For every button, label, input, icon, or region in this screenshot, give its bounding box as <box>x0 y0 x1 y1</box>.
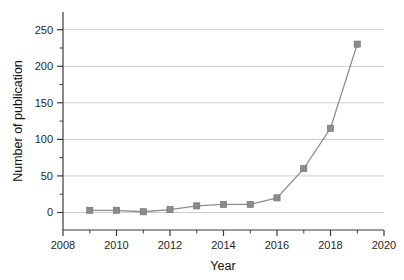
data-point-2016 <box>274 195 280 201</box>
x-tick-label-2016: 2016 <box>265 239 289 251</box>
series-line <box>90 44 358 212</box>
x-tick-label-2008: 2008 <box>51 239 75 251</box>
gridlines-group <box>63 30 384 213</box>
x-tick-label-2010: 2010 <box>104 239 128 251</box>
data-point-2018 <box>327 125 333 131</box>
data-point-2010 <box>113 207 119 213</box>
x-tick-label-2012: 2012 <box>158 239 182 251</box>
publication-trend-chart: 250 200 150 100 50 0 2008 2010 2012 <box>0 0 404 280</box>
data-series-group <box>87 41 361 215</box>
data-point-2012 <box>167 206 173 212</box>
y-tick-label-0: 0 <box>47 206 53 218</box>
y-tick-label-200: 200 <box>35 60 53 72</box>
x-axis: 2008 2010 2012 2014 2016 2018 2020 <box>51 230 396 251</box>
data-point-2017 <box>301 165 307 171</box>
data-point-2009 <box>87 207 93 213</box>
data-point-2015 <box>247 201 253 207</box>
data-point-2011 <box>140 209 146 215</box>
data-point-2019 <box>354 41 360 47</box>
y-tick-label-250: 250 <box>35 24 53 36</box>
x-tick-label-2020: 2020 <box>372 239 396 251</box>
chart-plot-area: 250 200 150 100 50 0 2008 2010 2012 <box>0 0 404 280</box>
data-point-2013 <box>194 203 200 209</box>
y-axis-title: Number of publication <box>11 60 25 182</box>
y-tick-label-100: 100 <box>35 133 53 145</box>
y-tick-label-150: 150 <box>35 97 53 109</box>
data-point-2014 <box>220 201 226 207</box>
y-tick-label-50: 50 <box>41 170 53 182</box>
x-tick-label-2014: 2014 <box>211 239 235 251</box>
series-markers <box>87 41 361 215</box>
y-axis: 250 200 150 100 50 0 <box>35 12 63 230</box>
x-axis-title: Year <box>210 259 235 273</box>
x-tick-label-2018: 2018 <box>318 239 342 251</box>
